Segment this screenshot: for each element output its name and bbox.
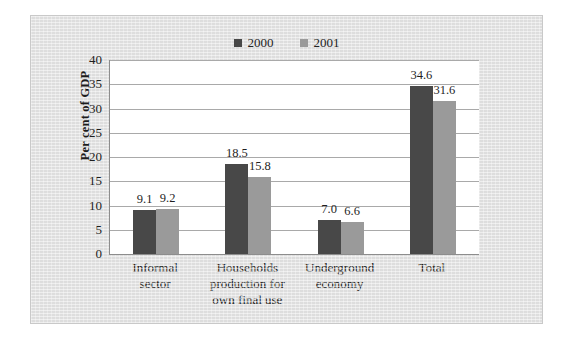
y-tick-label: 5 [96, 222, 103, 238]
x-category-line: Underground [305, 260, 374, 275]
bar-group: 9.19.2 [110, 60, 202, 254]
figure-screenshot: 2000 2001 Per cent of GDP 40353025201510… [0, 0, 570, 344]
legend-item-2001[interactable]: 2001 [300, 36, 340, 49]
legend-swatch-2001 [300, 39, 308, 47]
y-axis-title: Per cent of GDP [78, 46, 93, 186]
bar-2001-informal-sector[interactable] [156, 209, 179, 254]
bar-2001-households-production-for-own-final-use[interactable] [248, 177, 271, 254]
legend-item-2000[interactable]: 2000 [234, 36, 274, 49]
legend-label-2001: 2001 [314, 36, 340, 49]
x-category-label: Total [374, 260, 490, 276]
plot-area: 4035302520151050 9.19.218.515.87.06.634.… [109, 60, 479, 255]
bars-layer: 9.19.218.515.87.06.634.631.6 [110, 60, 479, 254]
y-tick-label: 10 [89, 198, 102, 214]
x-category-line: production for [210, 276, 285, 291]
chart-legend: 2000 2001 [31, 36, 542, 49]
x-category-line: own final use [212, 292, 282, 307]
x-category-line: Informal [132, 260, 177, 275]
x-category-line: economy [316, 276, 364, 291]
bar-value-label: 6.6 [334, 204, 371, 219]
y-tick-label: 0 [96, 246, 103, 262]
chart-figure-frame: 2000 2001 Per cent of GDP 40353025201510… [30, 15, 543, 324]
x-category-line: Total [419, 260, 446, 275]
bar-2000-households-production-for-own-final-use[interactable] [225, 164, 248, 254]
bar-group: 18.515.8 [202, 60, 294, 254]
bar-group: 7.06.6 [295, 60, 387, 254]
bar-value-label: 9.2 [149, 191, 186, 206]
bar-value-label: 34.6 [403, 68, 440, 83]
bar-2000-total[interactable] [410, 86, 433, 254]
bar-2000-underground-economy[interactable] [318, 220, 341, 254]
bar-group: 34.631.6 [387, 60, 479, 254]
bar-2001-total[interactable] [433, 101, 456, 254]
x-category-line: Households [217, 260, 278, 275]
x-category-line: sector [140, 276, 171, 291]
x-axis-category-labels: InformalsectorHouseholdsproduction forow… [109, 260, 478, 320]
legend-label-2000: 2000 [248, 36, 274, 49]
legend-swatch-2000 [234, 39, 242, 47]
bar-2001-underground-economy[interactable] [341, 222, 364, 254]
bar-value-label: 15.8 [241, 159, 278, 174]
bar-2000-informal-sector[interactable] [133, 210, 156, 254]
bar-value-label: 31.6 [426, 83, 463, 98]
